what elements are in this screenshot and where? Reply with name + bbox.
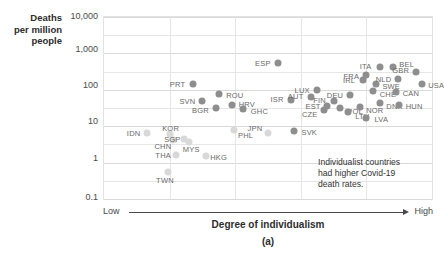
- data-point-idn: [143, 130, 150, 137]
- annotation-line-2: had higher Covid-19: [318, 168, 400, 179]
- y-tick-100: 100: [60, 80, 98, 90]
- annotation-text: Individualist countries had higher Covid…: [318, 157, 400, 189]
- gridline-h-major: [104, 17, 432, 18]
- gridline-v: [301, 17, 302, 199]
- y-tick-1: 1: [60, 153, 98, 163]
- y-tick-10000: 10,000: [60, 11, 98, 21]
- panel-label: (a): [103, 236, 433, 247]
- gridline-h-major: [104, 199, 432, 200]
- y-axis-title-line-1: Deaths: [0, 12, 62, 24]
- data-label-svn: SVN: [179, 97, 195, 106]
- data-label-nld: NLD: [376, 74, 392, 83]
- data-label-fra: FRA: [344, 72, 360, 81]
- x-axis-arrow-line: [129, 212, 403, 213]
- data-point-che: [369, 88, 376, 95]
- data-point-deu: [347, 92, 354, 99]
- data-point-gbr: [412, 68, 419, 75]
- y-tick-1000: 1,000: [60, 44, 98, 54]
- x-axis-high-label: High: [414, 206, 433, 216]
- data-point-svk: [291, 127, 298, 134]
- x-axis-low-label: Low: [103, 206, 120, 216]
- gridline-v: [235, 17, 236, 199]
- data-point-usa: [419, 80, 426, 87]
- data-point-bgr: [212, 105, 219, 112]
- y-tick-0.1: 0.1: [60, 192, 98, 202]
- gridline-h-major: [104, 53, 432, 54]
- data-point-can: [392, 88, 399, 95]
- data-point-nld: [394, 75, 401, 82]
- x-axis: Low High: [103, 206, 433, 218]
- data-point-ita: [376, 64, 383, 71]
- data-label-cze: CZE: [302, 110, 318, 119]
- data-point-lux: [314, 86, 321, 93]
- x-axis-title: Degree of individualism: [103, 219, 433, 230]
- data-label-mys: MYS: [183, 145, 200, 154]
- data-point-pol: [337, 105, 344, 112]
- data-point-cze: [320, 107, 327, 114]
- data-label-hun: HUN: [406, 102, 423, 111]
- data-label-sgp: SGP: [164, 134, 180, 143]
- data-point-ltu: [345, 108, 352, 115]
- data-label-phl: PHL: [238, 130, 253, 139]
- y-tick-10: 10: [60, 116, 98, 126]
- data-label-lva: LVA: [375, 114, 389, 123]
- data-point-hkg: [202, 153, 209, 160]
- data-label-prt: PRT: [170, 80, 185, 89]
- data-label-idn: IDN: [127, 129, 141, 138]
- annotation-line-1: Individualist countries: [318, 157, 400, 168]
- data-label-hkg: HKG: [210, 153, 227, 162]
- data-label-gbr: GBR: [392, 65, 409, 74]
- data-point-svn: [199, 98, 206, 105]
- data-point-tha: [173, 152, 180, 159]
- data-point-hrv: [228, 102, 235, 109]
- y-axis-title: Deaths per million people: [0, 12, 62, 47]
- data-point-ghc: [240, 106, 247, 113]
- y-axis-title-line-3: people: [0, 35, 62, 47]
- data-point-jpn: [265, 130, 272, 137]
- data-point-esp: [274, 59, 281, 66]
- data-point-phl: [230, 126, 237, 133]
- data-label-esp: ESP: [255, 58, 271, 67]
- y-axis-title-line-2: per million: [0, 24, 62, 36]
- data-label-isr: ISR: [270, 95, 283, 104]
- x-axis-arrow-head: [403, 209, 409, 215]
- data-point-lva: [363, 114, 370, 121]
- gridline-h-minor: [104, 144, 432, 145]
- data-label-usa: USA: [428, 80, 444, 89]
- gridline-h-minor: [104, 35, 432, 36]
- data-point-twn: [164, 169, 171, 176]
- data-label-ghc: GHC: [251, 107, 268, 116]
- data-label-svk: SVK: [301, 127, 317, 136]
- data-label-ita: ITA: [360, 62, 372, 71]
- data-label-kor: KOR: [162, 124, 179, 133]
- gridline-h-major: [104, 126, 432, 127]
- data-point-hun: [396, 102, 403, 109]
- data-label-tha: THA: [155, 151, 171, 160]
- data-label-deu: DEU: [327, 91, 343, 100]
- data-point-fra: [363, 72, 370, 79]
- plot-area: PRTROUSVNHRVBGRGHCESPISRLUXAUTFINESTCZEP…: [103, 16, 433, 200]
- gridline-h-minor: [104, 72, 432, 73]
- data-label-can: CAN: [403, 88, 419, 97]
- data-point-nor: [356, 104, 363, 111]
- annotation-line-3: death rates.: [318, 179, 400, 190]
- data-label-bgr: BGR: [192, 106, 209, 115]
- data-point-prt: [189, 81, 196, 88]
- data-label-rou: ROU: [226, 91, 243, 100]
- data-label-twn: TWN: [156, 176, 174, 185]
- data-label-aut: AUT: [288, 92, 304, 101]
- data-point-rou: [215, 91, 222, 98]
